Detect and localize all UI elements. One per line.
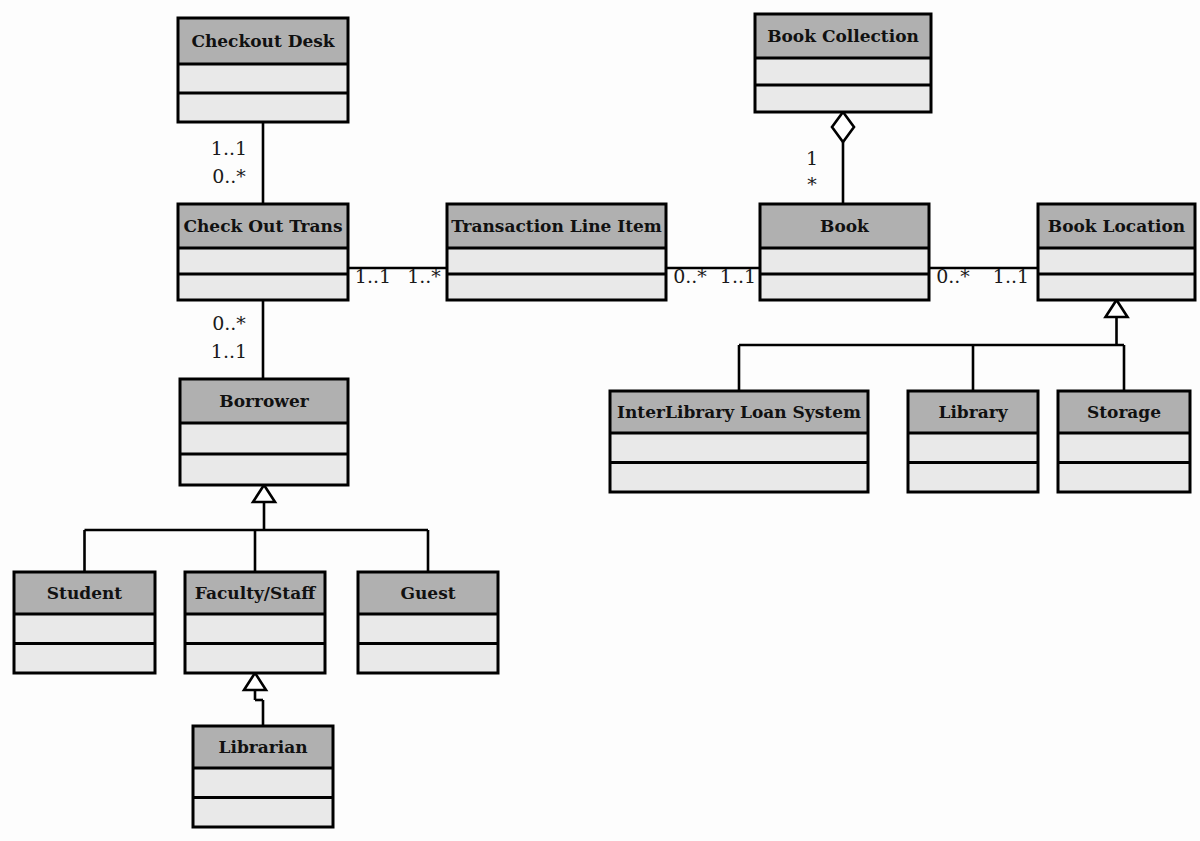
class-box-storage[interactable]: Storage — [1058, 391, 1190, 492]
class-compartment-1-storage — [1058, 433, 1190, 463]
class-name-faculty-staff: Faculty/Staff — [195, 583, 316, 603]
multiplicity-label-m-cot-tli-1: 1..1 — [355, 265, 391, 287]
multiplicity-label-m-bk-bl-1: 0..* — [936, 265, 970, 287]
class-compartment-2-borrower — [180, 454, 348, 485]
class-box-checkout-desk[interactable]: Checkout Desk — [178, 18, 348, 122]
class-box-student[interactable]: Student — [14, 572, 155, 673]
class-compartment-2-storage — [1058, 463, 1190, 493]
class-compartment-2-guest — [358, 644, 498, 674]
multiplicity-label-m-bk-bl-2: 1..1 — [993, 265, 1029, 287]
class-name-storage: Storage — [1087, 402, 1161, 422]
class-box-interlibrary-loan-system[interactable]: InterLibrary Loan System — [610, 391, 868, 492]
class-box-book-collection[interactable]: Book Collection — [755, 14, 931, 112]
aggregation-diamond-book-collection — [832, 112, 854, 142]
class-compartment-2-librarian — [193, 798, 333, 828]
class-compartment-1-book-collection — [755, 58, 931, 85]
class-compartment-2-check-out-trans — [178, 274, 348, 300]
inheritance-triangle-faculty-staff — [244, 673, 266, 690]
inheritance-triangle-book-location — [1106, 300, 1128, 317]
class-compartment-1-faculty-staff — [185, 614, 325, 644]
class-name-interlibrary-loan-system: InterLibrary Loan System — [617, 402, 861, 422]
class-name-guest: Guest — [400, 583, 455, 603]
class-compartment-1-checkout-desk — [178, 64, 348, 93]
multiplicity-label-m-cd-cot-2: 0..* — [212, 165, 246, 187]
multiplicity-label-m-tli-bk-1: 0..* — [673, 265, 707, 287]
class-compartment-2-interlibrary-loan-system — [610, 463, 868, 493]
class-name-book-location: Book Location — [1048, 216, 1185, 236]
class-compartment-2-student — [14, 644, 155, 674]
class-name-book: Book — [820, 216, 870, 236]
class-compartment-1-interlibrary-loan-system — [610, 433, 868, 463]
class-name-library: Library — [938, 402, 1008, 422]
uml-class-diagram: Checkout DeskBook CollectionCheck Out Tr… — [0, 0, 1200, 841]
class-box-library[interactable]: Library — [908, 391, 1038, 492]
class-compartment-1-transaction-line-item — [447, 248, 666, 274]
class-name-transaction-line-item: Transaction Line Item — [451, 216, 662, 236]
multiplicity-label-m-cot-bw-2: 1..1 — [211, 340, 247, 362]
class-box-faculty-staff[interactable]: Faculty/Staff — [185, 572, 325, 673]
multiplicity-label-m-tli-bk-2: 1..1 — [720, 265, 756, 287]
class-name-checkout-desk: Checkout Desk — [191, 31, 335, 51]
class-box-guest[interactable]: Guest — [358, 572, 498, 673]
class-compartment-1-guest — [358, 614, 498, 644]
class-box-book-location[interactable]: Book Location — [1038, 204, 1195, 300]
class-name-borrower: Borrower — [219, 391, 309, 411]
class-compartment-1-student — [14, 614, 155, 644]
class-box-transaction-line-item[interactable]: Transaction Line Item — [447, 204, 666, 300]
class-compartment-2-faculty-staff — [185, 644, 325, 674]
multiplicity-label-m-cot-bw-1: 0..* — [212, 312, 246, 334]
multiplicity-label-m-cot-tli-2: 1..* — [407, 265, 441, 287]
class-box-librarian[interactable]: Librarian — [193, 726, 333, 827]
class-compartment-2-transaction-line-item — [447, 274, 666, 300]
class-compartment-2-checkout-desk — [178, 93, 348, 122]
class-name-check-out-trans: Check Out Trans — [183, 216, 342, 236]
class-compartment-2-book — [760, 274, 929, 300]
class-compartment-1-check-out-trans — [178, 248, 348, 274]
class-compartment-2-library — [908, 463, 1038, 493]
class-compartment-1-librarian — [193, 768, 333, 798]
multiplicity-label-m-cd-cot-1: 1..1 — [211, 137, 247, 159]
inheritance-triangle-borrower — [253, 485, 275, 502]
class-compartment-2-book-collection — [755, 85, 931, 112]
class-compartment-1-borrower — [180, 423, 348, 454]
class-compartment-1-book-location — [1038, 248, 1195, 274]
class-box-book[interactable]: Book — [760, 204, 929, 300]
class-name-book-collection: Book Collection — [767, 26, 919, 46]
class-box-check-out-trans[interactable]: Check Out Trans — [178, 204, 348, 300]
class-compartment-1-book — [760, 248, 929, 274]
class-box-borrower[interactable]: Borrower — [180, 379, 348, 485]
class-name-student: Student — [47, 583, 123, 603]
multiplicity-label-m-bc-bk-2: * — [807, 173, 817, 195]
uml-canvas: Checkout DeskBook CollectionCheck Out Tr… — [0, 0, 1200, 841]
class-box-layer: Checkout DeskBook CollectionCheck Out Tr… — [14, 14, 1195, 827]
multiplicity-label-m-bc-bk-1: 1 — [806, 147, 818, 169]
class-compartment-1-library — [908, 433, 1038, 463]
class-name-librarian: Librarian — [218, 737, 307, 757]
class-compartment-2-book-location — [1038, 274, 1195, 300]
